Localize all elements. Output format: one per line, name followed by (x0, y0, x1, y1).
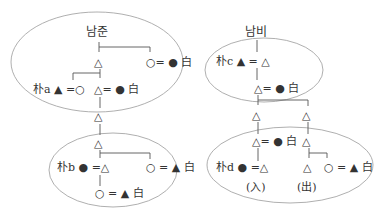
left-node-L5: ○ = ▲ 白 (95, 186, 144, 200)
left-node-L1: △ (94, 56, 103, 69)
right-annotation-out: (出) (297, 180, 317, 194)
left-branch-bracket-line (73, 69, 100, 80)
right-annotation-in: (入) (246, 181, 266, 194)
right-node-R3a: △= ● 白 (252, 134, 297, 148)
right-tree-title: 남비 (245, 25, 267, 39)
right-node-R2b: △ (302, 109, 311, 122)
right-node-Pak-d: 朴d ● =△ (216, 160, 269, 174)
left-node-L2: △= ● 白 (94, 82, 139, 96)
left-top-bracket-line (99, 42, 150, 52)
left-node-L3: △ (94, 110, 103, 123)
left-lower-bracket-line (100, 150, 150, 159)
left-node-L1-wife: ○= ● 白 (146, 55, 192, 69)
left-tree-title: 남준 (86, 25, 108, 39)
right-node-R4b: △ (303, 161, 312, 174)
kinship-diagram: 남준 △ ○= ● 白 朴a ▲ =○ △= ● 白 △ △ 朴b ● =△ ○… (0, 0, 380, 215)
right-node-Pak-c: 朴c ▲ = △ (216, 54, 270, 68)
left-node-L4-wife: ○ = ▲ 白 (146, 160, 195, 174)
right-node-R4b-wife: ○ = ▲ 白 (324, 160, 373, 174)
right-lower-bracket-line (309, 148, 327, 158)
right-node-R2a: △ (252, 109, 261, 122)
right-node-R3b: △ (302, 135, 311, 148)
left-node-L4: △ (94, 137, 103, 150)
left-node-Pak-b: 朴b ● =△ (57, 160, 110, 174)
left-node-Pak-a: 朴a ▲ =○ (33, 82, 85, 96)
right-node-R1: △= ● 白 (254, 81, 299, 95)
